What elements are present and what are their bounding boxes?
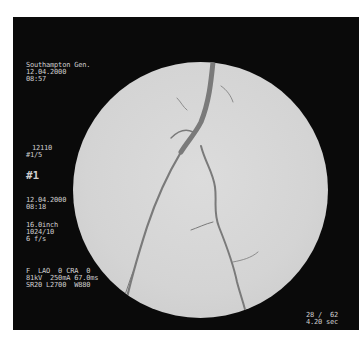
vessel-tree-image [73, 62, 328, 318]
elapsed-time: 4.20 sec [306, 319, 338, 326]
study-time: 08:57 [26, 76, 46, 83]
frame-rate: 6 f/s [26, 236, 46, 243]
geometry-line-3: SR20 L2700 W880 [26, 282, 90, 289]
fluoroscopy-field [73, 62, 328, 318]
run-label: #1 [26, 170, 39, 181]
series-number: #1/5 [26, 152, 42, 159]
acquisition-time: 08:18 [26, 204, 46, 211]
